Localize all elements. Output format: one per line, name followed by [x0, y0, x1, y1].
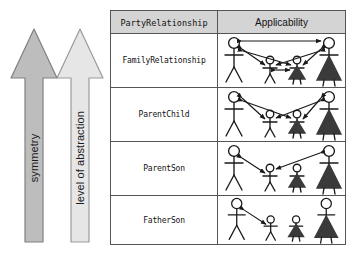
diagram-root: symmetry level of abstraction PartyRelat…	[0, 0, 357, 253]
relationship-arrows	[242, 98, 321, 119]
level-of-abstraction-arrow-label: level of abstraction	[74, 100, 86, 216]
family-relationship-figure-svg	[218, 34, 345, 88]
table-row: ParentSon	[111, 142, 345, 196]
table-row: ParentChild	[111, 88, 345, 142]
header-party-relationship: PartyRelationship	[111, 11, 218, 34]
axis-arrows-svg	[0, 0, 110, 253]
header-applicability: Applicability	[218, 11, 345, 34]
relationship-arrows	[242, 41, 321, 70]
applicability-cell-parent-child	[218, 88, 345, 141]
relationship-arrows	[242, 153, 320, 173]
table-header-row: PartyRelationship Applicability	[111, 11, 345, 34]
row-label-father-son: FatherSon	[111, 196, 218, 245]
symmetry-arrow-label: symmetry	[28, 122, 40, 194]
applicability-cell-family-relationship	[218, 34, 345, 87]
row-label-parent-child: ParentChild	[111, 88, 218, 141]
parent-child-figure-svg	[218, 88, 345, 142]
parent-son-figure-svg	[218, 142, 345, 196]
applicability-cell-parent-son	[218, 142, 345, 195]
relationship-table: PartyRelationship Applicability FamilyRe…	[110, 10, 346, 245]
table-row: FatherSon	[111, 196, 345, 245]
row-label-family-relationship: FamilyRelationship	[111, 34, 218, 87]
axis-arrows: symmetry level of abstraction	[0, 0, 110, 253]
father-son-figure-svg	[218, 196, 345, 245]
row-label-parent-son: ParentSon	[111, 142, 218, 195]
table-row: FamilyRelationship	[111, 34, 345, 88]
relationship-arrows	[244, 210, 266, 224]
applicability-cell-father-son	[218, 196, 345, 245]
